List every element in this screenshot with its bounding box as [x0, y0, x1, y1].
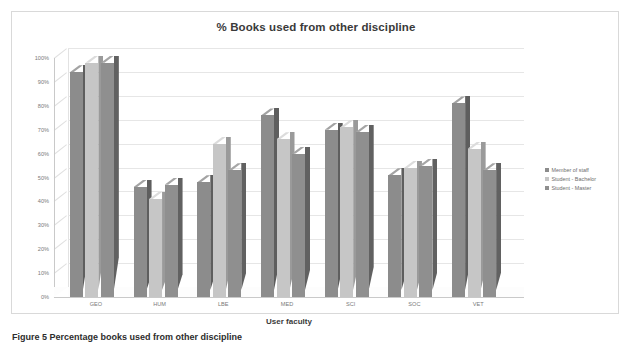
y-axis-tick-label: 100%: [35, 55, 49, 61]
plot-floor: 0%10%20%30%40%50%60%70%80%90%100% GEOHUM…: [54, 48, 524, 297]
bar: [419, 166, 432, 297]
bar: [388, 175, 401, 297]
bar: [261, 115, 274, 297]
bar-front-face: [325, 130, 338, 297]
chart-frame: % Books used from other discipline 0%10%…: [11, 11, 619, 314]
bar-front-face: [261, 115, 274, 297]
bar-front-face: [483, 170, 496, 297]
y-axis-tick-label: 30%: [38, 222, 49, 228]
y-axis-tick-label: 90%: [38, 79, 49, 85]
bar-side-face: [114, 56, 119, 290]
bar-front-face: [277, 139, 290, 297]
bar: [356, 132, 369, 297]
bar-front-face: [101, 63, 114, 297]
bar: [277, 139, 290, 297]
bar: [292, 154, 305, 297]
y-axis-tick-label: 80%: [38, 103, 49, 109]
bar-side-face: [178, 178, 183, 290]
bar-front-face: [356, 132, 369, 297]
legend-item-label: Student - Master: [552, 185, 592, 191]
gridline-connector: [54, 144, 67, 155]
chart-title: % Books used from other discipline: [12, 21, 620, 33]
bar: [85, 63, 98, 297]
bar-front-face: [468, 149, 481, 297]
bar-front-face: [388, 175, 401, 297]
chart-legend: Member of staffStudent - BachelorStudent…: [545, 167, 619, 195]
plot-area: 0%10%20%30%40%50%60%70%80%90%100% GEOHUM…: [54, 48, 524, 297]
x-axis-category-label: VET: [448, 301, 508, 307]
bar: [468, 149, 481, 297]
legend-swatch-icon: [545, 168, 549, 172]
bar: [165, 185, 178, 297]
gridline-connector: [54, 96, 67, 107]
bar-side-face: [369, 125, 374, 290]
bar-front-face: [165, 185, 178, 297]
bar-front-face: [70, 72, 83, 297]
figure-container: % Books used from other discipline 0%10%…: [0, 0, 630, 349]
y-axis-tick-label: 40%: [38, 198, 49, 204]
legend-item: Student - Master: [545, 185, 619, 191]
bar: [452, 103, 465, 297]
gridline-connector: [54, 72, 67, 83]
legend-item-label: Student - Bachelor: [552, 176, 597, 182]
y-axis-tick-label: 50%: [38, 175, 49, 181]
y-axis-tick-label: 70%: [38, 127, 49, 133]
bar: [228, 170, 241, 297]
bar-side-face: [496, 163, 501, 290]
y-axis-tick-label: 60%: [38, 151, 49, 157]
bar: [213, 144, 226, 297]
y-axis-tick-label: 20%: [38, 246, 49, 252]
bar: [70, 72, 83, 297]
bar: [101, 63, 114, 297]
bar-front-face: [85, 63, 98, 297]
x-axis-category-label: LBE: [193, 301, 253, 307]
bar-front-face: [340, 127, 353, 297]
bar: [149, 199, 162, 297]
bar: [483, 170, 496, 297]
bar-side-face: [241, 163, 246, 290]
bar-front-face: [134, 187, 147, 297]
bar-front-face: [213, 144, 226, 297]
x-axis-category-label: MED: [257, 301, 317, 307]
bar-front-face: [197, 182, 210, 297]
gridline-connector: [54, 239, 67, 250]
legend-item-label: Member of staff: [552, 167, 589, 173]
bar-front-face: [404, 168, 417, 297]
legend-item: Member of staff: [545, 167, 619, 173]
bar-front-face: [228, 170, 241, 297]
legend-swatch-icon: [545, 186, 549, 190]
bar: [325, 130, 338, 297]
gridline: [68, 96, 524, 97]
legend-swatch-icon: [545, 177, 549, 181]
gridline-connector: [54, 168, 67, 179]
x-axis-category-label: GEO: [66, 301, 126, 307]
x-axis-category-label: SCI: [321, 301, 381, 307]
bar-front-face: [149, 199, 162, 297]
x-axis-category-label: HUM: [130, 301, 190, 307]
y-axis-tick-label: 0%: [41, 294, 49, 300]
gridline-connector: [54, 120, 67, 131]
bar-side-face: [432, 159, 437, 290]
legend-item: Student - Bachelor: [545, 176, 619, 182]
bar-front-face: [292, 154, 305, 297]
x-axis-title: User faculty: [54, 317, 524, 326]
gridline-connector: [54, 48, 67, 59]
gridline: [68, 72, 524, 73]
bar: [197, 182, 210, 297]
y-axis-line: [54, 58, 55, 297]
bar: [340, 127, 353, 297]
figure-caption: Figure 5 Percentage books used from othe…: [12, 332, 612, 342]
bar: [134, 187, 147, 297]
bar-side-face: [305, 147, 310, 290]
gridline-connector: [54, 263, 67, 274]
bar: [404, 168, 417, 297]
x-axis-line: [54, 297, 510, 298]
gridline-connector: [54, 216, 67, 227]
x-axis-category-label: SOC: [384, 301, 444, 307]
y-axis-tick-label: 10%: [38, 270, 49, 276]
gridline-connector: [54, 192, 67, 203]
bar-front-face: [452, 103, 465, 297]
gridline: [68, 48, 524, 49]
bar-front-face: [419, 166, 432, 297]
